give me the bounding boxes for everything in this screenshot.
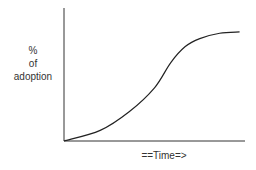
s-curve-chart: % of adoption ==Time=> xyxy=(0,0,256,170)
x-axis-label: ==Time=> xyxy=(141,150,186,161)
y-label-line-3: adoption xyxy=(14,71,52,82)
adoption-curve xyxy=(64,32,240,141)
y-label-line-2: of xyxy=(29,58,38,69)
y-label-line-1: % xyxy=(29,45,38,56)
